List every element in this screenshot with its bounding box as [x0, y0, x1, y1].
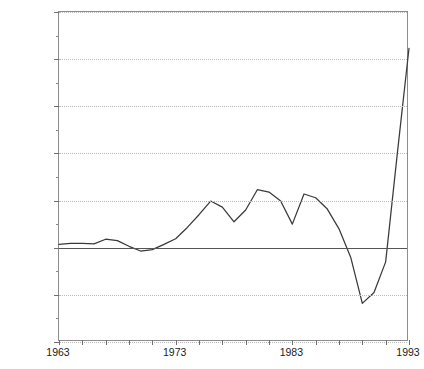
gridline-y — [59, 153, 407, 154]
y-minor-tick-mark — [56, 224, 59, 225]
plot-area — [58, 11, 408, 341]
y-tick-mark — [54, 295, 59, 296]
x-tick-mark — [222, 340, 223, 345]
x-tick-label: 1993 — [378, 347, 424, 358]
x-tick-mark — [386, 340, 387, 345]
x-tick-mark — [269, 340, 270, 345]
x-tick-mark — [316, 340, 317, 345]
x-tick-mark — [292, 340, 293, 345]
x-tick-mark — [199, 340, 200, 345]
x-tick-mark — [82, 340, 83, 345]
gridline-y — [59, 106, 407, 107]
y-tick-mark — [54, 248, 59, 249]
x-tick-label: 1983 — [261, 347, 321, 358]
zero-line — [59, 248, 407, 249]
x-tick-mark — [176, 340, 177, 345]
gridline-y — [59, 295, 407, 296]
gridline-y — [59, 59, 407, 60]
y-minor-tick-mark — [56, 83, 59, 84]
y-minor-tick-mark — [56, 271, 59, 272]
x-tick-mark — [106, 340, 107, 345]
x-tick-mark — [246, 340, 247, 345]
series-line — [59, 12, 409, 342]
x-tick-mark — [362, 340, 363, 345]
x-tick-mark — [339, 340, 340, 345]
x-tick-mark — [59, 340, 60, 345]
x-tick-mark — [409, 340, 410, 345]
y-tick-mark — [54, 153, 59, 154]
y-tick-mark — [54, 106, 59, 107]
x-tick-mark — [129, 340, 130, 345]
y-minor-tick-mark — [56, 36, 59, 37]
x-tick-label: 1973 — [145, 347, 205, 358]
y-tick-mark — [54, 59, 59, 60]
y-minor-tick-mark — [56, 130, 59, 131]
gridline-y — [59, 12, 407, 13]
chart-title — [0, 0, 417, 1]
y-tick-mark — [54, 201, 59, 202]
series-1-path — [59, 48, 409, 303]
y-minor-tick-mark — [56, 177, 59, 178]
gridline-y — [59, 201, 407, 202]
y-tick-mark — [54, 12, 59, 13]
x-tick-label: 1963 — [28, 347, 88, 358]
gridline-y — [59, 342, 407, 343]
x-tick-mark — [152, 340, 153, 345]
y-minor-tick-mark — [56, 318, 59, 319]
